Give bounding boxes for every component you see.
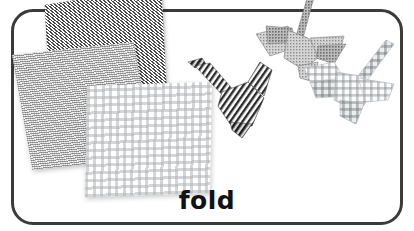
- flashcard-root: fold: [0, 0, 414, 231]
- card-caption: fold: [0, 186, 414, 216]
